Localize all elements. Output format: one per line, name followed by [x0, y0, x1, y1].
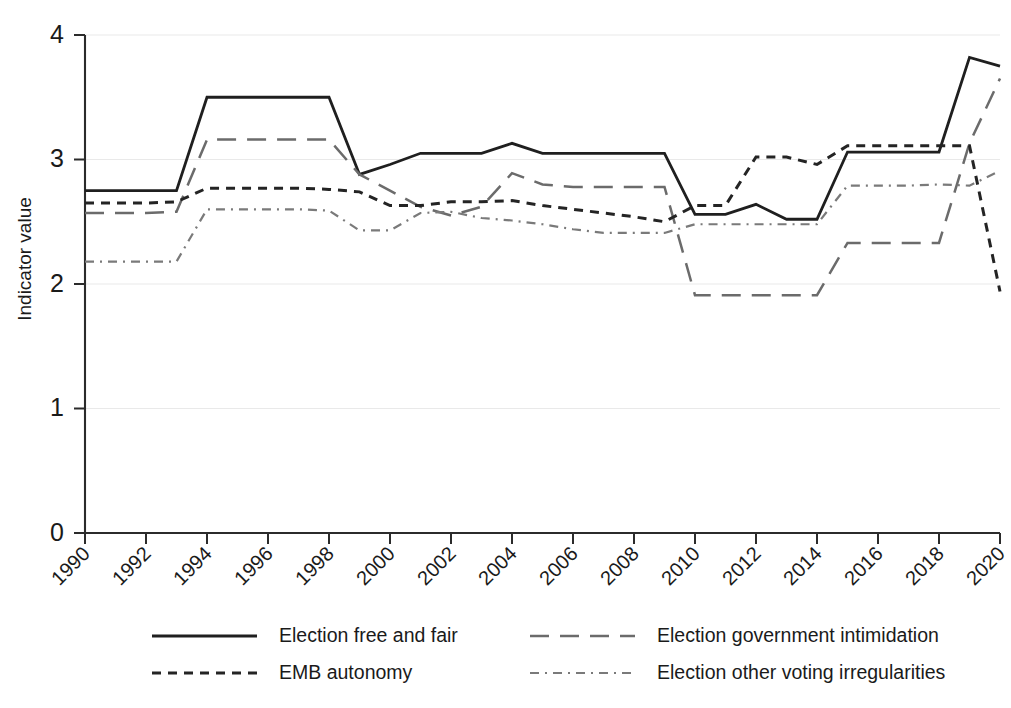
- chart-background: [0, 0, 1011, 708]
- y-axis-title: Indicator value: [14, 197, 35, 321]
- y-axis-tick-label: 1: [50, 393, 64, 421]
- y-axis-tick-label: 3: [50, 144, 64, 172]
- y-axis-tick-label: 2: [50, 269, 64, 297]
- legend-label-0: Election free and fair: [279, 624, 458, 646]
- legend-label-1: Election government intimidation: [657, 624, 939, 646]
- legend-label-3: Election other voting irregularities: [657, 661, 946, 683]
- y-axis-tick-label: 4: [50, 20, 64, 48]
- legend-label-2: EMB autonomy: [279, 661, 413, 683]
- chart-figure: 01234 1990199219941996199820002002200420…: [0, 0, 1011, 708]
- line-chart: 01234 1990199219941996199820002002200420…: [0, 0, 1011, 708]
- y-axis-tick-label: 0: [50, 518, 64, 546]
- y-axis-label: Indicator value: [14, 197, 35, 321]
